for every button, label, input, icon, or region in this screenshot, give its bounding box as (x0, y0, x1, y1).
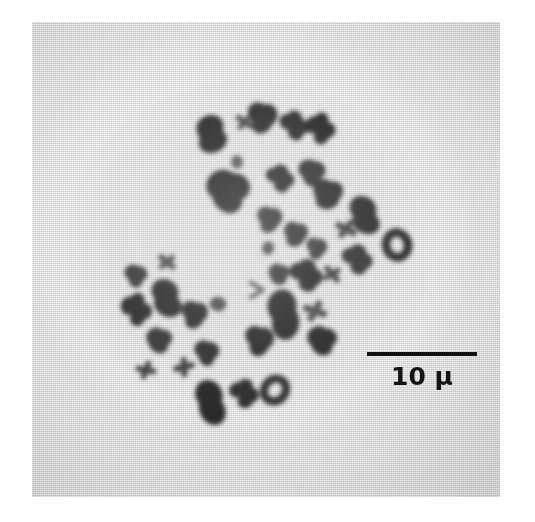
scale-bar: 10 µ (352, 352, 492, 389)
chromosome-body (340, 243, 374, 277)
chromosome-body (259, 374, 290, 406)
chromosome-body (201, 164, 252, 219)
chromosome-body (135, 360, 157, 380)
chromosome-body (303, 235, 328, 263)
chromosome-body (178, 297, 209, 332)
chromosome-body (209, 296, 227, 312)
chromosome-body (190, 375, 231, 430)
metaphase-spread-micrograph: 10 µ (32, 22, 500, 497)
chromosome-body (147, 275, 186, 322)
chromosome-body (241, 322, 276, 360)
chromosome-body (193, 111, 231, 157)
chromosome-body (303, 322, 337, 360)
chromosome-body (251, 283, 263, 297)
chromosome-body (302, 299, 328, 322)
scale-bar-label: 10 µ (352, 364, 492, 389)
chromosome-body (142, 324, 173, 357)
chromosome-body (124, 263, 150, 289)
chromosome-body (118, 291, 154, 329)
chromosome-body (313, 177, 347, 211)
chromosome-body (230, 155, 243, 170)
chromosome-body (302, 110, 338, 147)
chromosome-body (266, 261, 292, 287)
chromosome-body (254, 203, 283, 237)
chromosome-body (194, 339, 223, 368)
chromosome-layer (32, 22, 500, 497)
chromosome-body (288, 258, 325, 294)
chromosome-scatter (32, 22, 500, 497)
chromosome-body (383, 230, 410, 259)
chromosome-body (173, 357, 196, 377)
chromosome-body (227, 377, 261, 410)
scale-bar-line (367, 352, 477, 356)
chromosome-body (263, 162, 296, 195)
chromosome-body (157, 253, 177, 271)
chromosome-body (322, 264, 341, 284)
chromosome-body (261, 240, 275, 256)
figure-root: 10 µ (0, 0, 535, 522)
